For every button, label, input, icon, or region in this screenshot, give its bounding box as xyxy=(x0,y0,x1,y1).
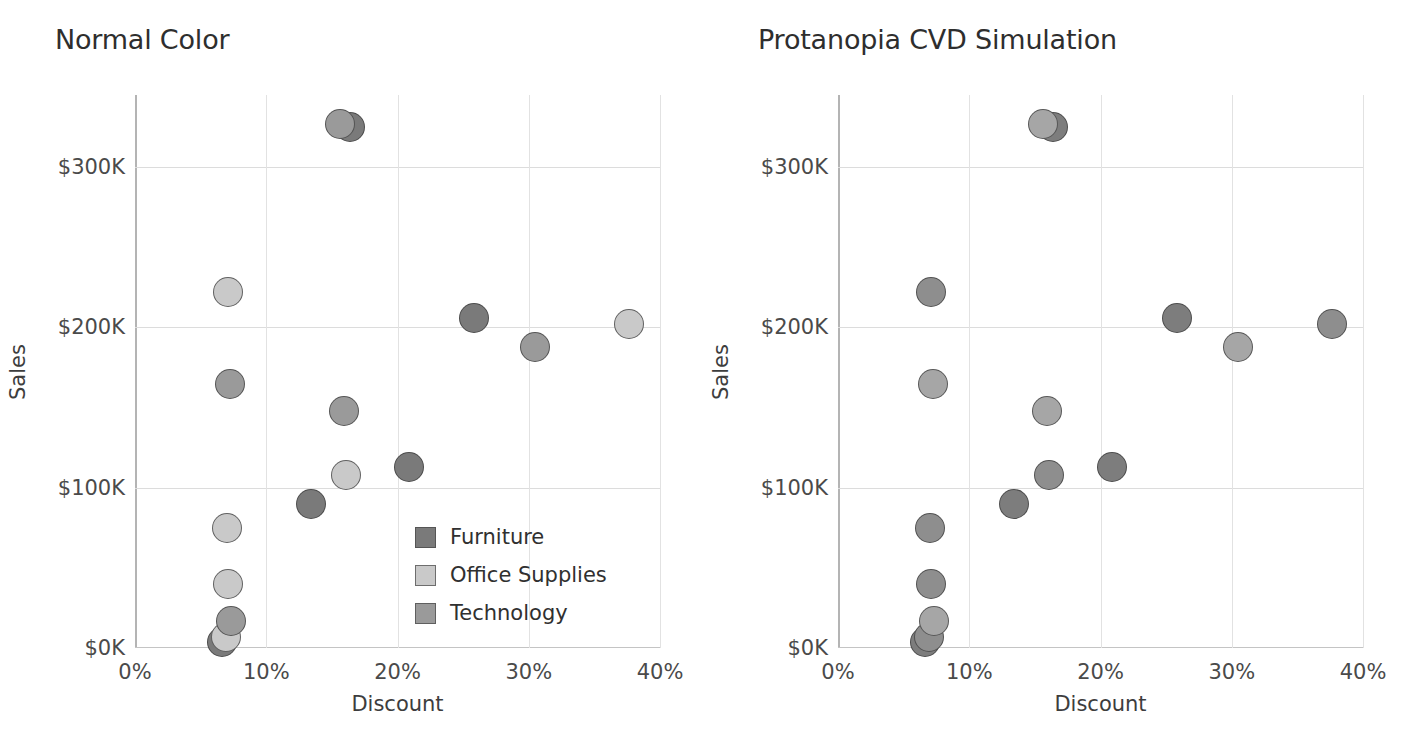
gridline-vertical xyxy=(398,95,399,648)
panel-normal-color: Normal Color $0K$100K$200K$300K0%10%20%3… xyxy=(0,0,702,746)
panel-title-protanopia: Protanopia CVD Simulation xyxy=(758,24,1117,55)
y-axis-tick-label: $300K xyxy=(761,155,828,179)
scatter-point[interactable] xyxy=(1097,452,1127,482)
scatter-point[interactable] xyxy=(216,606,246,636)
legend-normal: FurnitureOffice SuppliesTechnology xyxy=(415,518,607,632)
y-axis-tick-label: $0K xyxy=(85,636,126,660)
scatter-point[interactable] xyxy=(999,489,1029,519)
legend-swatch-icon xyxy=(415,565,436,586)
scatter-point[interactable] xyxy=(1223,332,1253,362)
panel-protanopia-simulation: Protanopia CVD Simulation $0K$100K$200K$… xyxy=(703,0,1405,746)
x-axis-tick-label: 40% xyxy=(1340,660,1387,684)
y-axis-tick-label: $100K xyxy=(58,476,125,500)
scatter-point[interactable] xyxy=(1032,396,1062,426)
gridline-vertical xyxy=(266,95,267,648)
x-axis-tick-label: 10% xyxy=(243,660,290,684)
gridline-vertical xyxy=(1363,95,1364,648)
scatter-point[interactable] xyxy=(918,369,948,399)
gridline-vertical xyxy=(1101,95,1102,648)
y-axis-title-normal: Sales xyxy=(6,344,30,400)
scatter-point[interactable] xyxy=(1162,303,1192,333)
y-axis-tick-label: $300K xyxy=(58,155,125,179)
scatter-point[interactable] xyxy=(394,452,424,482)
scatter-point[interactable] xyxy=(916,277,946,307)
panel-title-normal: Normal Color xyxy=(55,24,229,55)
y-axis-tick-label: $200K xyxy=(58,315,125,339)
scatter-point[interactable] xyxy=(296,489,326,519)
scatter-point[interactable] xyxy=(325,109,355,139)
scatter-point[interactable] xyxy=(212,513,242,543)
scatter-point[interactable] xyxy=(614,309,644,339)
scatter-point[interactable] xyxy=(213,569,243,599)
legend-item-label: Office Supplies xyxy=(450,563,607,587)
gridline-vertical xyxy=(660,95,661,648)
x-axis-tick-label: 20% xyxy=(1077,660,1124,684)
scatter-point[interactable] xyxy=(1317,309,1347,339)
legend-item-label: Technology xyxy=(450,601,568,625)
scatter-point[interactable] xyxy=(215,369,245,399)
legend-item[interactable]: Furniture xyxy=(415,518,607,556)
x-axis-tick-label: 0% xyxy=(821,660,854,684)
x-axis-tick-label: 30% xyxy=(1208,660,1255,684)
scatter-point[interactable] xyxy=(329,396,359,426)
plot-area-protanopia: $0K$100K$200K$300K0%10%20%30%40% xyxy=(838,95,1363,648)
y-axis-tick-label: $200K xyxy=(761,315,828,339)
y-axis-line xyxy=(135,95,137,648)
y-axis-tick-label: $0K xyxy=(788,636,829,660)
y-axis-title-protanopia: Sales xyxy=(709,344,733,400)
gridline-vertical xyxy=(1232,95,1233,648)
x-axis-tick-label: 30% xyxy=(505,660,552,684)
x-axis-title-protanopia: Discount xyxy=(838,692,1363,716)
x-axis-tick-label: 20% xyxy=(374,660,421,684)
x-axis-tick-label: 10% xyxy=(946,660,993,684)
scatter-point[interactable] xyxy=(1028,109,1058,139)
x-axis-tick-label: 40% xyxy=(637,660,684,684)
scatter-point[interactable] xyxy=(1034,460,1064,490)
y-axis-line xyxy=(838,95,840,648)
legend-swatch-icon xyxy=(415,527,436,548)
scatter-point[interactable] xyxy=(331,460,361,490)
legend-item[interactable]: Office Supplies xyxy=(415,556,607,594)
scatter-point[interactable] xyxy=(520,332,550,362)
scatter-point[interactable] xyxy=(459,303,489,333)
legend-item-label: Furniture xyxy=(450,525,544,549)
scatter-point[interactable] xyxy=(915,513,945,543)
gridline-vertical xyxy=(969,95,970,648)
scatter-point[interactable] xyxy=(213,277,243,307)
legend-item[interactable]: Technology xyxy=(415,594,607,632)
x-axis-title-normal: Discount xyxy=(135,692,660,716)
x-axis-tick-label: 0% xyxy=(118,660,151,684)
scatter-point[interactable] xyxy=(919,606,949,636)
scatter-point[interactable] xyxy=(916,569,946,599)
legend-swatch-icon xyxy=(415,603,436,624)
y-axis-tick-label: $100K xyxy=(761,476,828,500)
cvd-comparison-figure: Normal Color $0K$100K$200K$300K0%10%20%3… xyxy=(0,0,1405,746)
